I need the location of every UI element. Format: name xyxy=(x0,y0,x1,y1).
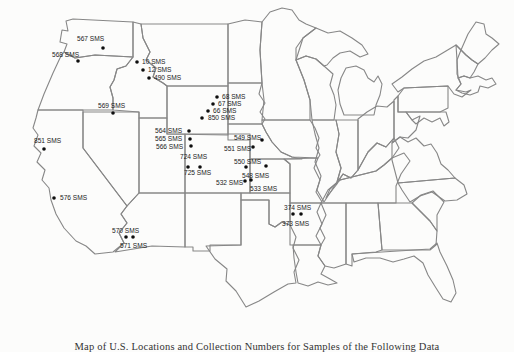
station-dot xyxy=(76,59,80,63)
station-dot xyxy=(299,212,303,216)
station-label: 850 SMS xyxy=(208,114,236,121)
station-label: 549 SMS xyxy=(234,134,262,141)
station-label: 533 SMS xyxy=(250,185,278,192)
station-dot xyxy=(206,109,210,113)
station-label: 490 SMS xyxy=(154,74,182,81)
station-dot xyxy=(291,212,295,216)
station-label: 373 SMS xyxy=(282,220,310,227)
state-outline-mn xyxy=(260,8,316,120)
station-dot xyxy=(251,145,255,149)
station-dot xyxy=(101,46,105,50)
station-label: 67 SMS xyxy=(218,100,242,107)
state-outlines xyxy=(33,8,499,307)
station-dot xyxy=(42,147,46,151)
station-dot xyxy=(52,196,56,200)
station-dot xyxy=(187,129,191,133)
state-outline-wv xyxy=(392,96,420,143)
state-outline-nm xyxy=(185,193,241,251)
station-dot xyxy=(131,235,135,239)
station-label: 851 SMS xyxy=(34,137,62,144)
station-dot xyxy=(188,137,192,141)
state-outline-va xyxy=(392,137,455,183)
state-outline-fl xyxy=(352,243,456,302)
station-label: 576 SMS xyxy=(60,194,88,201)
station-dot xyxy=(211,102,215,106)
station-dot xyxy=(135,60,139,64)
station-label: 548 SMS xyxy=(242,172,270,179)
station-label: 68 SMS xyxy=(222,93,246,100)
state-outline-tx xyxy=(206,200,299,307)
state-outline-md-de xyxy=(406,112,449,126)
station-label: 570 SMS xyxy=(112,227,140,234)
station-label: 550 SMS xyxy=(234,158,262,165)
state-outline-nd xyxy=(228,20,262,83)
station-dot xyxy=(249,178,253,182)
station-label: 532 SMS xyxy=(216,179,244,186)
state-outline-ms xyxy=(318,203,346,268)
station-label: 567 SMS xyxy=(77,35,105,42)
station-dot xyxy=(189,144,193,148)
station-dot xyxy=(141,68,145,72)
station-dot xyxy=(244,165,248,169)
state-outline-ia xyxy=(262,120,320,158)
station-label: 12 SMS xyxy=(148,66,172,73)
station-dot xyxy=(111,111,115,115)
station-label: 568 SMS xyxy=(52,51,80,58)
stations-layer: 567 SMS568 SMS10 SMS12 SMS490 SMS569 SMS… xyxy=(34,35,312,249)
station-label: 565 SMS xyxy=(155,135,183,142)
station-label: 10 SMS xyxy=(142,58,166,65)
station-dot xyxy=(147,76,151,80)
state-outline-la xyxy=(293,245,337,286)
state-outline-ny xyxy=(392,45,471,97)
station-label: 551 SMS xyxy=(224,145,252,152)
station-label: 569 SMS xyxy=(98,102,126,109)
station-label: 564 SMS xyxy=(155,127,183,134)
state-outline-nh-vt xyxy=(456,45,478,78)
state-outline-ga xyxy=(378,203,437,250)
state-outline-mi-up xyxy=(296,28,368,66)
state-outline-al xyxy=(346,203,382,266)
station-label: 725 SMS xyxy=(184,169,212,176)
station-dot xyxy=(243,179,247,183)
state-outline-wi xyxy=(296,56,336,120)
map-caption: Map of U.S. Locations and Collection Num… xyxy=(0,341,514,352)
station-dot xyxy=(200,116,204,120)
station-dot xyxy=(124,235,128,239)
state-outline-me xyxy=(461,22,499,64)
station-dot xyxy=(264,164,268,168)
state-outline-pa xyxy=(398,86,448,112)
state-outline-ma-ct-ri xyxy=(456,76,496,95)
station-label: 571 SMS xyxy=(120,242,148,249)
state-outline-in xyxy=(336,120,358,182)
station-label: 374 SMS xyxy=(284,204,312,211)
station-label: 566 SMS xyxy=(156,143,184,150)
state-outline-mi xyxy=(338,66,382,115)
station-dot xyxy=(215,95,219,99)
station-label: 724 SMS xyxy=(180,153,208,160)
station-label: 66 SMS xyxy=(213,107,237,114)
